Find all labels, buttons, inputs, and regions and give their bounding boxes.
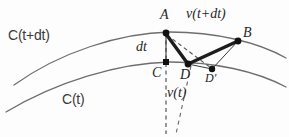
annotation-velocity-t-plus-dt: v(t+dt) — [186, 7, 226, 21]
point-label-b: B — [243, 26, 252, 40]
point-marker-a — [163, 30, 170, 37]
segment-a-to-d — [166, 34, 188, 64]
point-marker-b — [235, 38, 242, 45]
point-label-d-prime: D' — [205, 72, 216, 84]
curve-c-t — [6, 62, 286, 112]
point-label-d: D — [180, 68, 190, 82]
point-marker-c — [163, 59, 169, 65]
point-label-a: A — [160, 8, 169, 22]
segment-d-to-b — [188, 41, 238, 64]
annotation-dt: dt — [136, 40, 147, 54]
curve-label-c-t: C(t) — [62, 92, 85, 106]
diagram-canvas — [0, 0, 289, 137]
curve-label-c-t-plus-dt: C(t+dt) — [8, 28, 50, 42]
annotation-velocity-t: v(t) — [167, 86, 186, 100]
geometric-diagram: C(t+dt) C(t) A B C D D' dt v(t+dt) v(t) — [0, 0, 289, 137]
point-label-c: C — [152, 66, 161, 80]
